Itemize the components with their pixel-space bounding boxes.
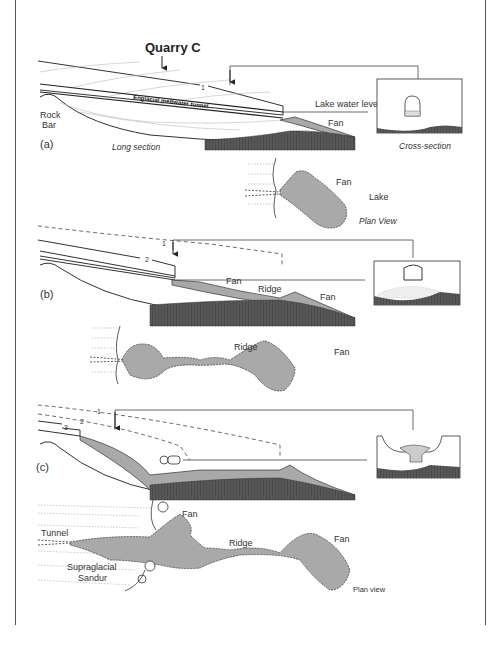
plan-fan-label-c2: Fan [334, 534, 350, 544]
plan-view-label: Plan View [359, 216, 398, 226]
panel-c: 1 2 3 (c) Fan Tunnel Supraglacial Sandur… [36, 405, 460, 594]
plan-ridge-label-b: Ridge [234, 342, 258, 352]
plan-tunnel-label-c: Tunnel [41, 528, 68, 538]
panel-b: 1 2 Fan Ridge Fan (b) Ridge Fan [38, 226, 460, 391]
quarry-c-label: Quarry C [145, 40, 201, 55]
fan-label: Fan [328, 118, 344, 128]
panel-c-label: (c) [36, 461, 49, 473]
plan-supraglacial-label-1: Supraglacial [67, 562, 117, 572]
plan-view-label-c: Plan view [353, 585, 386, 594]
plan-supraglacial-label-2: Sandur [78, 573, 107, 583]
long-section-label: Long section [112, 142, 160, 152]
lake-water-level-label: Lake water level [315, 99, 380, 109]
panel-a-label: (a) [40, 138, 53, 150]
plan-fan-label-b: Fan [334, 347, 350, 357]
ice-margin-1: 1 [201, 84, 205, 91]
plan-lake-label: Lake [369, 192, 389, 202]
ice-margin-1-b: 1 [162, 240, 166, 247]
ice-margin-2-c: 2 [80, 418, 84, 425]
fan-label-b2: Fan [320, 292, 336, 302]
panel-a: Quarry C 1 Englacial meltwater tunnel La… [38, 40, 462, 228]
fan-label-b1: Fan [226, 276, 242, 286]
glacial-diagram: Quarry C 1 Englacial meltwater tunnel La… [0, 0, 502, 650]
tunnel-label: Englacial meltwater tunnel [133, 94, 209, 109]
rock-bar-label-2: Bar [42, 120, 56, 130]
ice-margin-3-c: 3 [64, 424, 68, 431]
cross-section-label: Cross-section [399, 141, 451, 151]
plan-ridge-label-c: Ridge [229, 538, 253, 548]
rock-bar-label-1: Rock [40, 110, 61, 120]
plan-fan-label-c1: Fan [182, 509, 198, 519]
panel-b-label: (b) [40, 288, 53, 300]
plan-fan-label: Fan [336, 177, 352, 187]
ridge-label-b: Ridge [258, 284, 282, 294]
ice-margin-2-b: 2 [145, 256, 149, 263]
ice-margin-1-c: 1 [97, 408, 101, 415]
